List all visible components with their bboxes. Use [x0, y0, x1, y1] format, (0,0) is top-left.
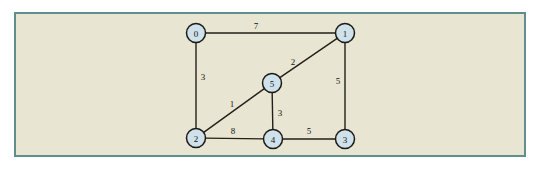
edge-weight-hit-4-3	[302, 124, 316, 138]
edge-weight-hit-5-4	[273, 106, 287, 120]
graph-figure: 012345 73251385	[0, 0, 539, 173]
edge-weight-hit-0-2	[196, 70, 210, 84]
graph-node-hit-0[interactable]	[186, 23, 206, 43]
graph-node-hit-3[interactable]	[335, 129, 355, 149]
graph-node-hit-5[interactable]	[262, 73, 282, 93]
edge-weight-hit-2-4	[226, 124, 240, 138]
edge-weight-hit-0-1	[249, 19, 263, 33]
edge-weight-hit-2-5	[225, 97, 239, 111]
edge-weight-hit-1-5	[286, 55, 300, 69]
graph-node-hit-1[interactable]	[335, 23, 355, 43]
edge-weight-hit-1-3	[331, 74, 345, 88]
graph-node-hit-4[interactable]	[263, 129, 283, 149]
graph-node-hit-2[interactable]	[186, 128, 206, 148]
